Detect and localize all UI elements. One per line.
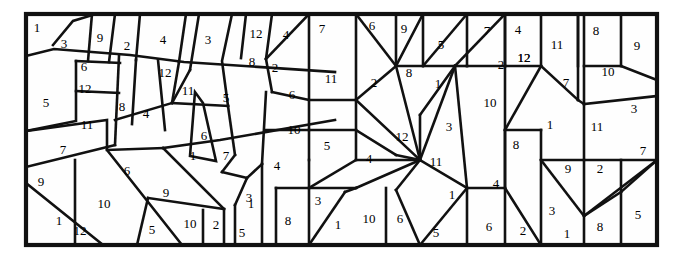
cell-label: 4 — [274, 158, 281, 173]
cell-label: 9 — [634, 38, 641, 53]
cell-label: 1 — [335, 217, 342, 232]
cell-label: 6 — [397, 211, 404, 226]
cell-label: 10 — [288, 122, 301, 137]
cell-label: 5 — [635, 207, 642, 222]
cell-label: 10 — [602, 64, 615, 79]
cell-label: 7 — [484, 23, 491, 38]
cell-label: 8 — [406, 65, 413, 80]
cell-label: 4 — [143, 106, 150, 121]
cell-label: 8 — [513, 137, 520, 152]
cell-label: 4 — [366, 151, 373, 166]
cell-label: 11 — [325, 71, 338, 86]
cell-label: 6 — [81, 59, 88, 74]
cell-label: 11 — [430, 154, 443, 169]
cell-label: 11 — [591, 119, 604, 134]
cell-label: 7 — [223, 148, 230, 163]
cell-label: 6 — [124, 163, 131, 178]
cell-label: 3 — [61, 36, 68, 51]
cell-label: 6 — [201, 128, 208, 143]
cell-label: 5 — [438, 37, 445, 52]
cell-label: 12 — [74, 223, 87, 238]
cell-label: 11 — [551, 37, 564, 52]
cell-label: 1 — [56, 213, 63, 228]
cell-label: 2 — [371, 75, 378, 90]
cell-label: 1 — [564, 226, 571, 241]
cell-label: 1 — [248, 196, 255, 211]
cell-label: 12 — [250, 26, 263, 41]
cell-label: 9 — [163, 185, 170, 200]
cell-label: 12 — [159, 65, 172, 80]
cell-label: 5 — [223, 90, 230, 105]
cell-label: 2 — [520, 223, 527, 238]
cell-label: 10 — [184, 216, 197, 231]
cell-label: 9 — [38, 174, 45, 189]
cell-label: 8 — [285, 213, 292, 228]
cell-label: 5 — [324, 138, 331, 153]
polygon-dissection-figure: 1392431247695741211896128211281212710125… — [0, 0, 684, 263]
puzzle-canvas: 1392431247695741211896128211281212710125… — [0, 0, 684, 263]
cell-label: 3 — [315, 193, 322, 208]
cell-label: 5 — [433, 225, 440, 240]
cell-label: 12 — [396, 129, 409, 144]
cell-label: 6 — [289, 87, 296, 102]
cell-label: 7 — [640, 143, 647, 158]
cell-label: 3 — [446, 119, 453, 134]
cell-label: 2 — [498, 57, 505, 72]
cell-label: 9 — [401, 21, 408, 36]
cell-label: 9 — [565, 161, 572, 176]
cell-label: 4 — [515, 22, 522, 37]
cell-label: 11 — [81, 117, 94, 132]
cell-label: 2 — [213, 217, 220, 232]
cell-label: 8 — [593, 23, 600, 38]
cell-label: 11 — [182, 83, 195, 98]
cell-label: 5 — [149, 222, 156, 237]
cell-label: 6 — [369, 18, 376, 33]
cell-label: 10 — [484, 95, 497, 110]
cell-label: 2 — [124, 38, 131, 53]
cell-label: 2 — [272, 60, 279, 75]
cell-label: 5 — [239, 225, 246, 240]
cell-label: 10 — [363, 211, 376, 226]
cell-label: 7 — [563, 75, 570, 90]
cell-label: 8 — [119, 99, 126, 114]
cell-label: 5 — [43, 95, 50, 110]
cell-label: 1 — [34, 20, 41, 35]
cell-label: 6 — [486, 219, 493, 234]
cell-label: 4 — [493, 176, 500, 191]
cell-label: 7 — [319, 21, 326, 36]
cell-label: 8 — [597, 219, 604, 234]
cell-label: 1 — [547, 117, 554, 132]
cell-label: 3 — [205, 32, 212, 47]
cell-label: 1 — [449, 187, 456, 202]
cell-label: 1 — [190, 148, 197, 163]
cell-label: 1 — [435, 76, 442, 91]
cell-label: 12 — [79, 81, 92, 96]
cell-label: 9 — [97, 30, 104, 45]
cell-label: 2 — [597, 161, 604, 176]
cell-label: 12 — [518, 50, 531, 65]
cell-label: 3 — [549, 203, 556, 218]
cell-label: 7 — [60, 142, 67, 157]
cell-label: 4 — [160, 32, 167, 47]
cell-label: 8 — [249, 54, 256, 69]
cell-label: 3 — [631, 101, 638, 116]
cell-label: 10 — [98, 196, 111, 211]
cell-label: 4 — [283, 27, 290, 42]
